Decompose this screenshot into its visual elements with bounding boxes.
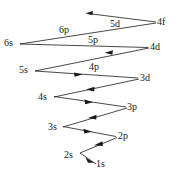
orbital-label-3d: 3d	[140, 73, 150, 83]
orbital-label-4s: 4s	[38, 92, 47, 102]
orbital-label-2s: 2s	[64, 150, 73, 160]
arrow-3d-to-4s	[54, 79, 139, 97]
orbital-arrow-canvas	[0, 0, 179, 183]
orbital-label-5s: 5s	[19, 65, 28, 75]
arrow-2p-to-2s	[80, 138, 117, 154]
arrow-4s-to-3p	[54, 97, 126, 108]
orbital-label-4f: 4f	[157, 17, 165, 27]
orbital-label-4d: 4d	[150, 42, 160, 52]
orbital-label-2p: 2p	[118, 131, 128, 141]
arrow-3p-to-3s	[63, 108, 127, 127]
orbital-label-3s: 3s	[48, 122, 57, 132]
arrow-2s-to-1s	[80, 153, 96, 164]
arrow-4f-to-5d	[86, 11, 157, 22]
arrow-5s-to-3d	[35, 71, 138, 78]
orbital-label-5d: 5d	[110, 19, 120, 29]
orbital-label-6p: 6p	[59, 25, 69, 35]
orbital-label-6s: 6s	[4, 38, 13, 48]
orbital-label-5p: 5p	[88, 35, 98, 45]
aufbau-diagram: 4f 5d 6p 6s 5p 4d 5s 4p 3d 4s 3p 3s 2p 2…	[0, 0, 179, 183]
arrow-3s-to-2p	[63, 127, 116, 137]
orbital-label-4p: 4p	[89, 62, 99, 72]
orbital-label-1s: 1s	[96, 159, 105, 169]
arrow-6s-to-4d	[20, 44, 148, 48]
orbital-label-3p: 3p	[127, 102, 137, 112]
